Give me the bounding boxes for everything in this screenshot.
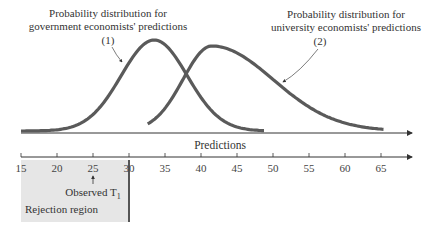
tick-label: 35 <box>160 162 171 174</box>
curve-university <box>148 46 384 129</box>
curve-government <box>21 40 264 131</box>
observed-text: Observed T <box>65 186 116 198</box>
tick-label: 15 <box>16 162 27 174</box>
observed-label: Observed T1 <box>48 186 138 203</box>
tick-label: 40 <box>196 162 207 174</box>
tick-label: 50 <box>268 162 279 174</box>
pointer-arrow-2 <box>283 49 318 82</box>
axis-title: Predictions <box>180 139 260 152</box>
tick-label: 30 <box>124 162 135 174</box>
tick-label: 55 <box>304 162 315 174</box>
tick-label: 20 <box>52 162 63 174</box>
rejection-region-label: Rejection region <box>25 203 98 216</box>
gov-label-line1: Probability distribution for <box>48 7 168 20</box>
uni-label-line2: university economists' predictions <box>256 21 434 34</box>
tick-label: 45 <box>232 162 243 174</box>
observed-subscript: 1 <box>117 192 121 201</box>
pointer-arrow-1 <box>112 47 122 62</box>
tick-label: 25 <box>88 162 99 174</box>
uni-label-line1: Probability distribution for <box>276 8 416 21</box>
tick-label: 65 <box>376 162 387 174</box>
uni-marker: (2) <box>310 35 330 48</box>
gov-label-line2: government economists' predictions <box>18 20 198 33</box>
tick-label: 60 <box>340 162 351 174</box>
gov-marker: (1) <box>98 34 118 47</box>
